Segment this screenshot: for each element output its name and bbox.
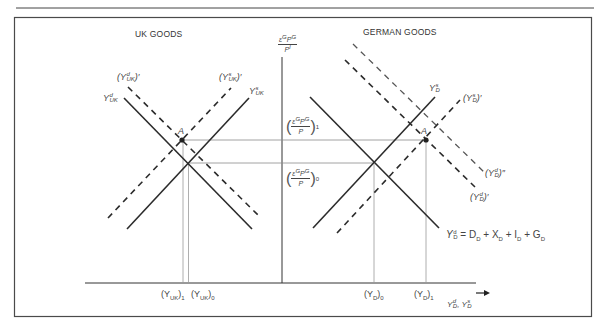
- uk-demand-shifted-label: (YdUK)′: [117, 72, 140, 83]
- de-supply-label: YsD: [429, 83, 440, 94]
- de-demand-shifted-2-curve: [353, 44, 484, 172]
- uk-x-tick-0: (YUK)0: [191, 290, 215, 299]
- rer-1-label: (εGPGP)1: [286, 118, 319, 135]
- uk-point-a-label: A: [178, 127, 184, 136]
- de-point-a-label: A: [421, 127, 427, 136]
- uk-supply-curve: [127, 98, 249, 229]
- uk-supply-shifted-curve: [108, 88, 231, 218]
- uk-supply-label: YsUK: [249, 86, 264, 97]
- de-x-tick-0: (YD)0: [364, 290, 384, 299]
- x-axis-arrowhead: [484, 290, 490, 296]
- de-demand-shifted-2-label: (YdD)″: [485, 168, 505, 179]
- rer-0-label: (εGPGP)0: [286, 170, 319, 187]
- uk-demand-label: YdUK: [103, 93, 118, 104]
- uk-demand-shifted-curve: [128, 87, 258, 215]
- de-x-tick-1: (YD)1: [414, 290, 434, 299]
- de-supply-shifted-curve: [337, 100, 460, 233]
- horizontal-axis-label: YdD, YsD: [447, 299, 472, 310]
- uk-x-tick-1: (YUK)1: [161, 290, 185, 299]
- vertical-axis-label: εGPG Pl: [278, 36, 297, 53]
- de-demand-shifted-1-curve: [345, 60, 475, 187]
- de-supply-shifted-label: (YsD)′: [463, 93, 482, 104]
- uk-point-a: [179, 137, 184, 142]
- de-demand-shifted-1-label: (YdD)′: [470, 192, 489, 203]
- uk-panel-title: UK GOODS: [135, 30, 182, 39]
- german-panel-title: GERMAN GOODS: [363, 28, 437, 37]
- de-demand-equation: YdD = DD + XD + ID + GD: [446, 230, 545, 241]
- de-point-a: [423, 137, 428, 142]
- uk-supply-shifted-label: (YsUK)′: [219, 72, 242, 83]
